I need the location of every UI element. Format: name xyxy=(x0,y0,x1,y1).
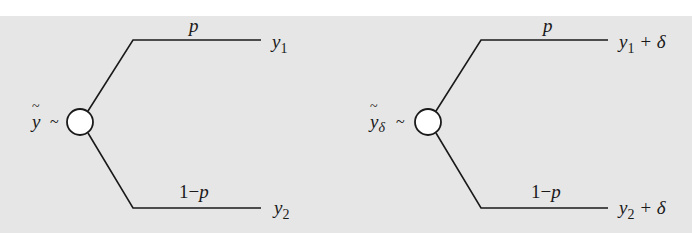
tilde-mark: ~ xyxy=(370,99,378,114)
branch-lower xyxy=(88,133,261,208)
distribution-symbol: ~ xyxy=(50,113,59,130)
branch-lower xyxy=(436,133,608,208)
lower-outcome: y2 + δ xyxy=(617,197,667,222)
lower-probability: 1−p xyxy=(531,181,561,202)
upper-probability: p xyxy=(541,15,553,36)
upper-outcome: y1 xyxy=(270,31,287,56)
lower-outcome: y2 xyxy=(272,197,289,222)
chance-node xyxy=(415,109,441,135)
upper-outcome: y1 + δ xyxy=(617,31,667,56)
branch-upper xyxy=(436,40,608,111)
branch-upper xyxy=(88,40,261,111)
distribution-symbol: ~ xyxy=(396,113,405,130)
tree-left: y ~ ~ p y1 1−p y2 xyxy=(30,15,289,222)
tilde-mark: ~ xyxy=(32,99,40,114)
chance-node xyxy=(67,109,93,135)
random-variable-label: y xyxy=(30,111,41,132)
tree-right: yδ ~ ~ p y1 + δ 1−p y2 + δ xyxy=(368,15,667,222)
random-variable-label: yδ xyxy=(368,111,385,135)
probability-trees: y ~ ~ p y1 1−p y2 yδ ~ ~ p y1 + δ 1−p y2… xyxy=(0,0,692,233)
upper-probability: p xyxy=(187,15,199,36)
lower-probability: 1−p xyxy=(179,181,209,202)
